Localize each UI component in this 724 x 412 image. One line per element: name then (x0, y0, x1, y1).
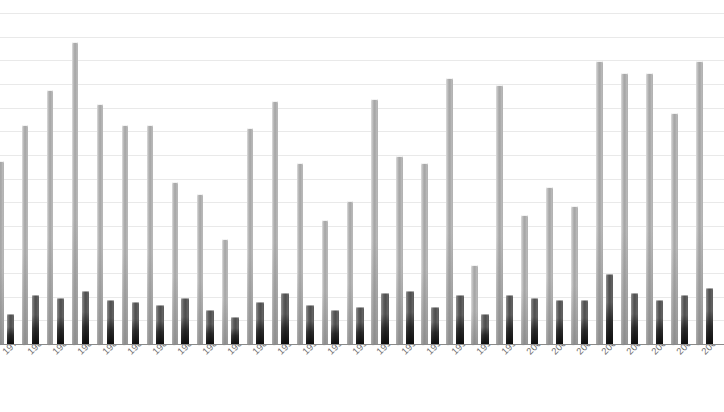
bar-group (296, 0, 321, 345)
bar-dark-1985[interactable] (156, 305, 164, 345)
bar-light-2001[interactable] (546, 187, 553, 345)
bar-dark-1981[interactable] (57, 298, 65, 345)
bar-group (146, 0, 171, 345)
bar-dark-1979[interactable] (7, 314, 15, 345)
bar-dark-2007[interactable] (706, 288, 714, 345)
bar-light-1991[interactable] (297, 163, 304, 345)
bar-dark-1980[interactable] (32, 295, 40, 345)
bar-group (346, 0, 371, 345)
bar-dark-1986[interactable] (181, 298, 189, 345)
bar-dark-1987[interactable] (206, 310, 214, 345)
bar-light-1994[interactable] (371, 99, 378, 345)
bar-group (321, 0, 346, 345)
x-tick-label-2001: 2001 (549, 345, 572, 357)
bar-dark-1998[interactable] (481, 314, 489, 345)
bar-light-1983[interactable] (97, 104, 104, 345)
bar-group (570, 0, 595, 345)
bar-dark-2004[interactable] (631, 293, 639, 345)
x-tick-label-1990: 1990 (275, 345, 298, 357)
bar-light-1995[interactable] (396, 156, 403, 345)
bar-dark-2006[interactable] (681, 295, 689, 345)
bar-light-1997[interactable] (446, 78, 453, 345)
bar-light-1993[interactable] (347, 201, 354, 345)
x-tick-label-2003: 2003 (599, 345, 622, 357)
bar-light-1988[interactable] (222, 239, 229, 345)
bar-dark-1999[interactable] (506, 295, 514, 345)
x-tick-label-1996: 1996 (424, 345, 447, 357)
bar-group (21, 0, 46, 345)
x-tick-label-1999: 1999 (499, 345, 522, 357)
bar-light-1999[interactable] (496, 85, 503, 345)
bar-dark-1995[interactable] (406, 291, 414, 345)
bar-light-1981[interactable] (47, 90, 54, 345)
bar-light-1979[interactable] (0, 161, 4, 345)
bar-light-2000[interactable] (521, 215, 528, 345)
x-tick-label-1994: 1994 (374, 345, 397, 357)
bar-light-1984[interactable] (122, 125, 129, 345)
bar-dark-1993[interactable] (356, 307, 364, 345)
bar-dark-1988[interactable] (231, 317, 239, 345)
x-tick-label-2007: 2007 (699, 345, 722, 357)
bar-group (695, 0, 720, 345)
x-tick-label-1995: 1995 (399, 345, 422, 357)
bar-dark-1984[interactable] (132, 302, 140, 345)
bar-group (0, 0, 21, 345)
bar-group (520, 0, 545, 345)
bar-dark-2000[interactable] (531, 298, 539, 345)
x-tick-label-1991: 1991 (300, 345, 323, 357)
bar-light-2002[interactable] (571, 206, 578, 345)
bar-light-1987[interactable] (197, 194, 204, 345)
plot-area (0, 0, 724, 345)
x-tick-label-1979: 1979 (0, 345, 23, 357)
bar-dark-2003[interactable] (606, 274, 614, 345)
bar-group (121, 0, 146, 345)
bar-group (96, 0, 121, 345)
x-tick-label-1997: 1997 (449, 345, 472, 357)
bar-light-2003[interactable] (596, 61, 603, 345)
x-tick-label-1980: 1980 (25, 345, 48, 357)
bar-light-2006[interactable] (671, 113, 678, 345)
x-tick-label-1982: 1982 (75, 345, 98, 357)
bar-group (620, 0, 645, 345)
bar-light-1985[interactable] (147, 125, 154, 345)
bar-group (545, 0, 570, 345)
bar-group (71, 0, 96, 345)
bar-dark-1990[interactable] (281, 293, 289, 345)
x-tick-label-2005: 2005 (649, 345, 672, 357)
bar-dark-2001[interactable] (556, 300, 564, 345)
x-tick-label-2004: 2004 (624, 345, 647, 357)
bar-dark-1994[interactable] (381, 293, 389, 345)
bar-dark-2002[interactable] (581, 300, 589, 345)
bar-light-1996[interactable] (421, 163, 428, 345)
bar-group (645, 0, 670, 345)
bar-dark-1982[interactable] (82, 291, 90, 345)
bar-light-1992[interactable] (322, 220, 329, 345)
x-tick-label-1984: 1984 (125, 345, 148, 357)
bar-dark-1992[interactable] (331, 310, 339, 345)
x-tick-label-2006: 2006 (674, 345, 697, 357)
bar-chart: 1979197919801980198119811982198219831983… (0, 0, 724, 412)
x-tick-label-1988: 1988 (225, 345, 248, 357)
bar-light-1980[interactable] (22, 125, 29, 345)
bar-light-2004[interactable] (621, 73, 628, 345)
bar-group (196, 0, 221, 345)
bar-dark-1996[interactable] (431, 307, 439, 345)
bar-dark-1989[interactable] (256, 302, 264, 345)
bar-group (495, 0, 520, 345)
x-tick-label-1985: 1985 (150, 345, 173, 357)
bar-light-1986[interactable] (172, 182, 179, 345)
bar-dark-2005[interactable] (656, 300, 664, 345)
bar-dark-1991[interactable] (306, 305, 314, 345)
bar-group (445, 0, 470, 345)
bar-light-1989[interactable] (247, 128, 254, 346)
bar-light-1982[interactable] (72, 42, 79, 345)
bar-group (395, 0, 420, 345)
x-tick-label-1981: 1981 (50, 345, 73, 357)
bar-dark-1997[interactable] (456, 295, 464, 345)
bar-dark-1983[interactable] (107, 300, 115, 345)
bar-light-2007[interactable] (696, 61, 703, 345)
bar-light-1990[interactable] (272, 101, 279, 345)
bar-group (370, 0, 395, 345)
bar-light-2005[interactable] (646, 73, 653, 345)
bar-light-1998[interactable] (471, 265, 478, 345)
